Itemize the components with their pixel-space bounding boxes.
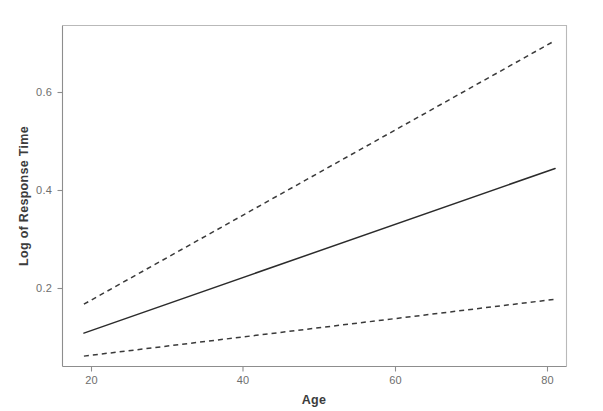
x-tick-label-2: 60 bbox=[389, 374, 402, 386]
y-tick-label-0: 0.6 bbox=[36, 86, 52, 98]
y-axis-ticks: 0.6 0.4 0.2 bbox=[36, 86, 62, 294]
y-tick-label-1: 0.4 bbox=[36, 184, 52, 196]
series-line-fit bbox=[84, 168, 555, 333]
y-axis-title: Log of Response Time bbox=[17, 126, 31, 266]
x-tick-label-1: 40 bbox=[237, 374, 250, 386]
regression-line-chart: 0.6 0.4 0.2 20 40 60 80 Age Log of Respo… bbox=[0, 0, 603, 411]
plot-frame-border bbox=[63, 26, 567, 367]
x-axis-title: Age bbox=[302, 393, 327, 407]
data-series-group bbox=[84, 41, 555, 357]
x-tick-label-0: 20 bbox=[85, 374, 98, 386]
y-tick-label-2: 0.2 bbox=[36, 282, 52, 294]
chart-container: 0.6 0.4 0.2 20 40 60 80 Age Log of Respo… bbox=[0, 0, 603, 411]
x-tick-label-3: 80 bbox=[541, 374, 554, 386]
x-axis-ticks: 20 40 60 80 bbox=[85, 367, 554, 387]
series-line-upper-confidence bbox=[84, 41, 555, 305]
